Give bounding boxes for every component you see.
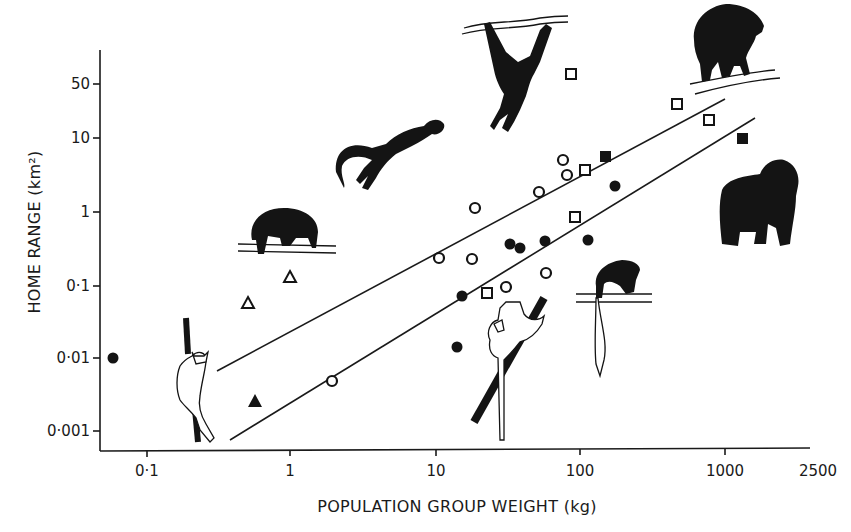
- data-point-filled-circle: [108, 353, 119, 364]
- data-point-open-square: [570, 212, 580, 222]
- data-point-open-circle: [501, 282, 511, 292]
- scatter-chart: 50 10 1 0·1 0·01 0·001 0·1 1 10 100 1000…: [0, 0, 851, 532]
- data-point-filled-circle: [452, 342, 463, 353]
- bushbaby-illustration: [177, 318, 214, 442]
- data-point-filled-square: [737, 133, 748, 144]
- y-tick-label: 1: [80, 203, 90, 221]
- y-tick-label: 0·001: [47, 422, 90, 440]
- y-tick-label: 0·01: [57, 349, 90, 367]
- gorilla-illustration: [720, 160, 799, 246]
- data-point-open-circle: [434, 253, 444, 263]
- data-point-filled-circle: [515, 243, 526, 254]
- gibbon-illustration: [462, 16, 568, 132]
- data-point-open-circle: [470, 203, 480, 213]
- x-axis-title: POPULATION GROUP WEIGHT (kg): [317, 497, 597, 516]
- y-tick-label: 0·1: [66, 277, 90, 295]
- data-point-filled-triangle: [248, 394, 262, 407]
- data-point-open-square: [482, 288, 492, 298]
- data-point-open-circle: [327, 376, 337, 386]
- x-tick-label: 100: [566, 462, 595, 480]
- sloth-illustration: [238, 208, 336, 254]
- data-point-open-circle: [558, 155, 568, 165]
- data-point-open-square: [566, 69, 576, 79]
- data-point-filled-circle: [540, 236, 551, 247]
- data-point-filled-circle: [457, 291, 468, 302]
- data-point-open-circle: [534, 187, 544, 197]
- data-point-open-circle: [467, 254, 477, 264]
- x-tick-label: 10: [426, 462, 445, 480]
- data-point-open-square: [580, 165, 590, 175]
- x-tick-label: 1000: [706, 462, 744, 480]
- data-point-filled-circle: [610, 181, 621, 192]
- y-tick-label: 50: [71, 75, 90, 93]
- x-ticks: 0·1 1 10 100 1000 2500: [135, 449, 837, 480]
- spider-monkey-illustration: [336, 120, 444, 190]
- data-point-filled-circle: [583, 235, 594, 246]
- chimpanzee-illustration: [690, 4, 780, 94]
- lemur-illustration: [474, 298, 544, 440]
- data-point-open-circle: [541, 268, 551, 278]
- data-point-open-square: [704, 115, 714, 125]
- data-point-open-circle: [562, 170, 572, 180]
- colobus-illustration: [576, 260, 652, 376]
- data-point-open-triangle: [242, 297, 254, 308]
- data-point-open-square: [672, 99, 682, 109]
- y-axis-title: HOME RANGE (km²): [25, 150, 44, 313]
- data-point-open-triangle: [284, 271, 296, 282]
- x-tick-label: 2500: [799, 462, 837, 480]
- y-tick-label: 10: [71, 129, 90, 147]
- x-axis-line: [100, 448, 810, 451]
- x-tick-label: 0·1: [135, 462, 159, 480]
- data-point-filled-square: [600, 151, 611, 162]
- x-tick-label: 1: [285, 462, 295, 480]
- y-ticks: 50 10 1 0·1 0·01 0·001: [47, 75, 100, 440]
- data-point-filled-circle: [505, 239, 516, 250]
